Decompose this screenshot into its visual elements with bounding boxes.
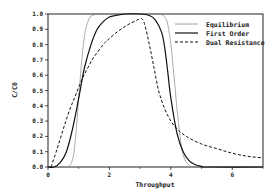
y-tick-label: 0.6 — [32, 71, 43, 78]
legend-label-equilibrium: Equilibrium — [206, 21, 249, 29]
x-tick-label: 0 — [46, 171, 50, 178]
y-axis-label: C/C0 — [11, 82, 19, 98]
y-tick-label: 0.3 — [32, 117, 43, 124]
y-tick-label: 1.0 — [32, 10, 43, 17]
y-tick-label: 0.5 — [32, 87, 43, 94]
x-tick-label: 4 — [169, 171, 173, 178]
y-tick-label: 0.2 — [32, 132, 43, 139]
y-tick-label: 0.4 — [32, 102, 43, 109]
y-tick-label: 0.7 — [32, 56, 43, 63]
x-tick-label: 2 — [108, 171, 112, 178]
x-tick-label: 6 — [230, 171, 234, 178]
legend-label-first-order: First Order — [206, 30, 249, 38]
x-axis-label: Throughput — [135, 181, 174, 189]
y-tick-label: 0.0 — [32, 163, 43, 170]
legend-label-dual-resistance: Dual Resistance — [206, 39, 265, 47]
y-tick-label: 0.9 — [32, 25, 43, 32]
y-tick-label: 0.8 — [32, 41, 43, 48]
breakthrough-curve-chart: 0.00.10.20.30.40.50.60.70.80.91.0 0246 E… — [0, 0, 276, 195]
y-tick-label: 0.1 — [32, 148, 43, 155]
